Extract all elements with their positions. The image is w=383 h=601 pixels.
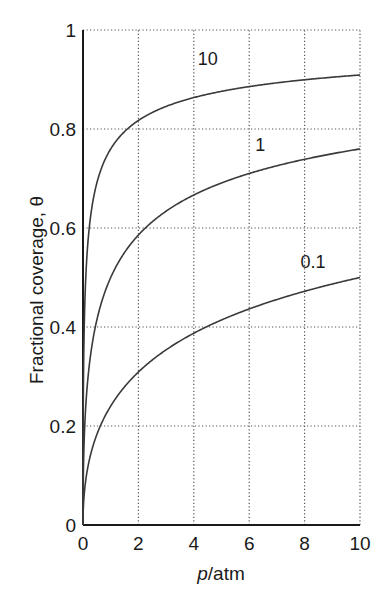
y-tick-label: 1 — [65, 20, 76, 41]
x-tick-label: 6 — [244, 533, 255, 554]
y-tick-label: 0.2 — [50, 416, 76, 437]
y-tick-label: 0 — [65, 515, 76, 536]
x-tick-label: 0 — [78, 533, 89, 554]
x-tick-label: 2 — [133, 533, 144, 554]
x-tick-label: 8 — [299, 533, 310, 554]
y-tick-label: 0.8 — [50, 119, 76, 140]
y-tick-label: 0.6 — [50, 218, 76, 239]
curve-label: 1 — [255, 135, 265, 155]
x-axis-label: p/atm — [196, 563, 245, 584]
isotherm-curves — [83, 75, 360, 525]
curve-K-1 — [83, 149, 360, 525]
y-axis-label: Fractional coverage, θ — [26, 196, 47, 384]
y-tick-label: 0.4 — [50, 317, 77, 338]
curve-K-0.1 — [83, 278, 360, 526]
x-tick-label: 10 — [349, 533, 370, 554]
curve-label: 10 — [198, 49, 218, 69]
x-tick-label: 4 — [189, 533, 200, 554]
curve-labels: 1010.1 — [198, 49, 326, 272]
curve-label: 0.1 — [300, 252, 325, 272]
grid-lines — [83, 30, 360, 525]
axes — [83, 30, 360, 525]
chart: 024681000.20.40.60.81 1010.1 p/atm Fract… — [0, 0, 383, 601]
curve-K-10 — [83, 75, 360, 525]
